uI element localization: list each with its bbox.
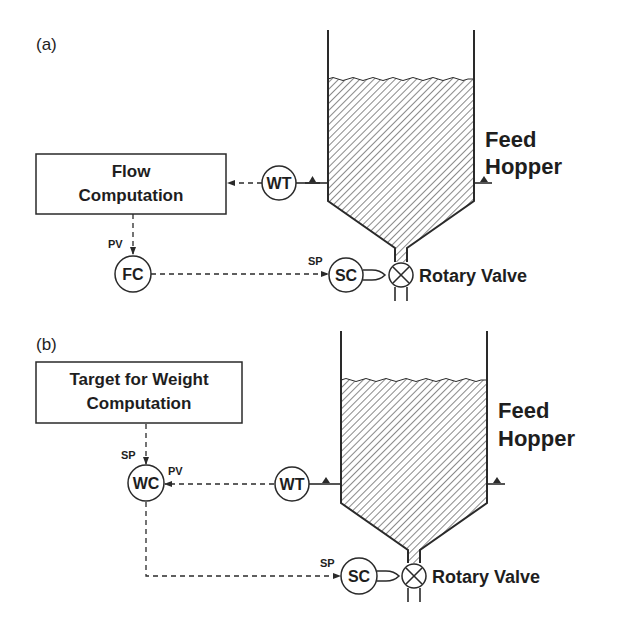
- wc-to-sc-signal: [146, 502, 340, 576]
- weight-transmitter-a: WT: [262, 166, 296, 200]
- feed-hopper-b: Feed Hopper: [341, 331, 575, 563]
- sc-a-text: SC: [335, 267, 358, 284]
- load-cell-left-a-icon: [309, 176, 316, 182]
- speed-controller-a: SC: [329, 258, 363, 292]
- hopper-a-line1: Feed: [485, 127, 536, 152]
- motor-coupling-a-icon: [363, 270, 385, 280]
- load-cell-left-b-icon: [322, 477, 330, 483]
- wt-b-text: WT: [280, 476, 305, 493]
- pv-label-a: PV: [108, 238, 123, 250]
- flow-box-line2: Computation: [79, 186, 184, 205]
- target-box-line1: Target for Weight: [69, 370, 208, 389]
- load-cell-right-b-icon: [493, 477, 501, 483]
- panel-a: (a) Flow Computation WT PV FC SP: [36, 30, 562, 301]
- weight-controller: WC: [128, 465, 164, 501]
- sp-label-wc: SP: [121, 449, 136, 461]
- feed-hopper-a: Feed Hopper: [328, 30, 562, 262]
- hopper-a-line2: Hopper: [485, 154, 562, 179]
- pv-label-b: PV: [168, 465, 183, 477]
- fc-text: FC: [122, 266, 144, 283]
- flow-controller: FC: [115, 256, 151, 292]
- hopper-b-line1: Feed: [498, 398, 549, 423]
- flow-box-line1: Flow: [112, 162, 151, 181]
- wt-a-text: WT: [267, 175, 292, 192]
- panel-b-label: (b): [36, 335, 57, 354]
- panel-a-label: (a): [36, 35, 57, 54]
- wc-text: WC: [133, 475, 160, 492]
- speed-controller-b: SC: [341, 558, 377, 594]
- flow-computation-box: Flow Computation: [36, 154, 226, 214]
- rotary-valve-a-label: Rotary Valve: [419, 266, 527, 286]
- hopper-b-line2: Hopper: [498, 426, 575, 451]
- target-box-line2: Computation: [87, 394, 192, 413]
- target-weight-box: Target for Weight Computation: [36, 362, 242, 423]
- panel-b: (b) Target for Weight Computation SP WC …: [36, 331, 575, 602]
- rotary-valve-b-icon: [402, 564, 426, 602]
- motor-coupling-b-icon: [377, 571, 399, 581]
- sp-label-sc: SP: [320, 557, 335, 569]
- diagram-canvas: (a) Flow Computation WT PV FC SP: [0, 0, 618, 629]
- sp-label-a: SP: [308, 255, 323, 267]
- rotary-valve-a-icon: [389, 263, 413, 301]
- rotary-valve-b-label: Rotary Valve: [432, 567, 540, 587]
- sc-b-text: SC: [348, 568, 371, 585]
- weight-transmitter-b: WT: [275, 467, 309, 501]
